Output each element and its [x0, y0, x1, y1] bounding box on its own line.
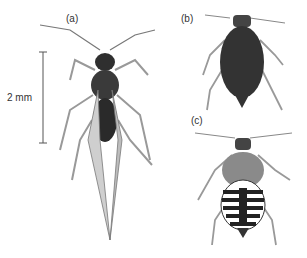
- panel-label-b: (b): [181, 13, 193, 24]
- scale-bar: [39, 52, 47, 143]
- insect-a-illustration: [40, 25, 155, 240]
- insect-c-illustration: [195, 133, 292, 245]
- figure-illustration: [0, 0, 307, 258]
- insect-b-illustration: [203, 15, 285, 110]
- panel-label-a: (a): [66, 13, 78, 24]
- panel-label-c: (c): [191, 115, 203, 126]
- scale-bar-label: 2 mm: [7, 92, 32, 103]
